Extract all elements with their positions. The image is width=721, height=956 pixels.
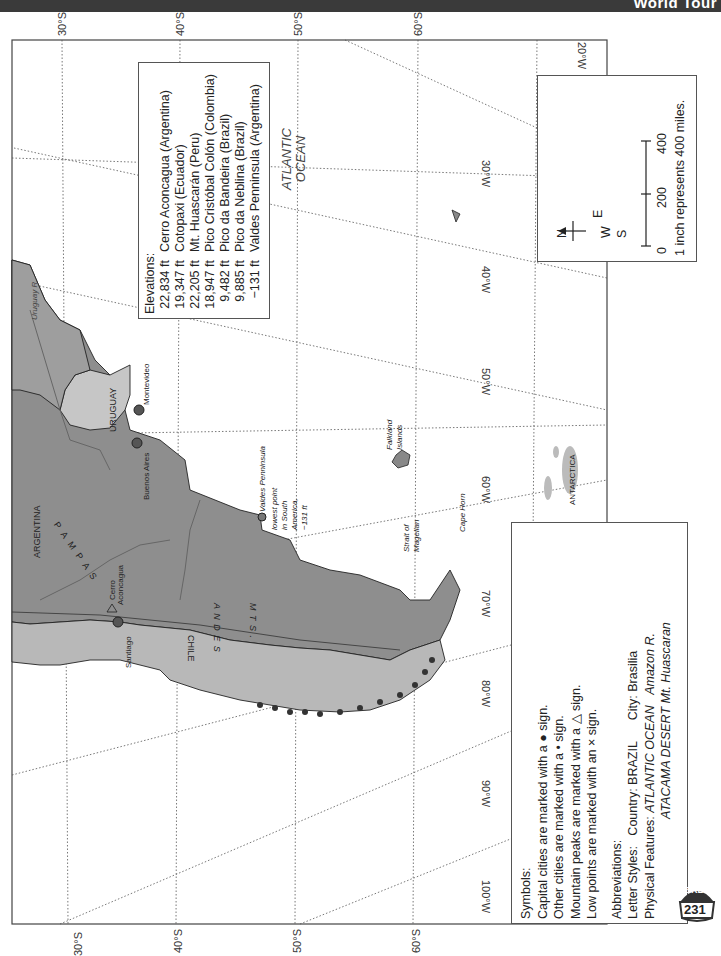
lon-label-90w: 90°W: [480, 780, 492, 807]
physical-features-2: ATACAMA DESERT Mt. Huascaran: [658, 529, 675, 919]
valdes-note: lowest pointin SouthAmerica,−131 ft: [270, 488, 310, 530]
compass-e: E: [590, 210, 607, 218]
compass-n: N: [554, 229, 571, 238]
symbol-low-point: Low points are marked with an × sign.: [584, 529, 601, 919]
lon-label-70w: 70°W: [480, 590, 492, 617]
symbol-city: Other cities are marked with a • sign.: [551, 529, 568, 919]
valdes-marker: [258, 513, 266, 521]
lon-label-50w: 50°W: [480, 368, 492, 395]
country-label-uruguay: URUGUAY: [108, 388, 118, 432]
lat-label-bottom-30: 30°S: [72, 932, 84, 956]
falkland-islands: [392, 450, 410, 468]
river-label-uruguay: Uruguay R.: [30, 280, 39, 320]
strait-label: Strait ofMagellan: [402, 520, 422, 552]
elevation-item: 19,347 ftCotopaxi (Ecuador): [173, 66, 188, 314]
lon-label-60w: 60°W: [480, 476, 492, 503]
elevations-content: Elevations: 22,834 ftCerro Aconcagua (Ar…: [143, 66, 263, 314]
scale-tick-200: 200: [654, 187, 671, 208]
compass-w: W: [598, 226, 615, 238]
elevations-box: Elevations: 22,834 ftCerro Aconcagua (Ar…: [138, 62, 270, 319]
lon-label-40w: 40°W: [480, 266, 492, 293]
elevation-item: 9,482 ftPico da Bandeira (Brazil): [218, 66, 233, 314]
elevation-item: 18,947 ftPico Cristóbal Colón (Colombia): [203, 66, 218, 314]
elevation-item: −131 ftValdes Penninsula (Argentina): [248, 66, 263, 314]
scale-box: N W E S 0 200 400 1 inch represents 400 …: [537, 75, 697, 262]
lat-label-bottom-60: 60°S: [410, 929, 422, 953]
lat-label-bottom-40: 40°S: [172, 929, 184, 953]
badge-top: SRB: [685, 885, 704, 895]
symbol-peak: Mountain peaks are marked with a △ sign.: [568, 529, 585, 919]
symbol-capital: Capital cities are marked with a ● sign.: [535, 529, 552, 919]
lon-label-20w: 20°W: [576, 42, 588, 69]
city-label-santiago: Santiago: [124, 636, 133, 668]
falkland-label: FalklandIslands: [385, 420, 405, 450]
lon-label-30w: 30°W: [480, 160, 492, 187]
scale-note: 1 inch represents 400 miles.: [672, 100, 689, 256]
badge-number: 231: [684, 902, 706, 917]
ocean-label: ATLANTICOCEAN: [280, 128, 308, 190]
lon-label-80w: 80°W: [480, 680, 492, 707]
cape-horn-label: Cape Horn: [458, 493, 467, 532]
city-label-montevideo: Montevideo: [142, 364, 151, 405]
lat-label-top-50: 50°S: [292, 12, 304, 36]
country-label-chile: CHILE: [186, 635, 196, 662]
symbols-title: Symbols:: [518, 529, 535, 919]
lon-label-100w: 100°W: [480, 880, 492, 913]
legend-box: Symbols: Capital cities are marked with …: [511, 522, 688, 924]
mts-label: M T S .: [248, 603, 258, 639]
letter-styles: Letter Styles: Country: BRAZIL City: Bra…: [625, 529, 642, 919]
lat-label-top-30: 30°S: [56, 12, 68, 36]
scale-tick-400: 400: [654, 133, 671, 154]
elevation-item: 22,834 ftCerro Aconcagua (Argentina): [158, 66, 173, 314]
physical-features: Physical Features: ATLANTIC OCEAN Amazon…: [642, 529, 659, 919]
legend-content: Symbols: Capital cities are marked with …: [518, 529, 675, 919]
city-label-buenos-aires: Buenos Aires: [142, 453, 151, 500]
elevation-item: 9,885 ftPico da Neblina (Brazil): [233, 66, 248, 314]
lat-label-top-40: 40°S: [174, 12, 186, 36]
peak-label-aconcagua: Aconcagua: [116, 565, 125, 605]
low-point-label-valdes: Valdes Penninsula: [258, 446, 267, 512]
abbreviations-title: Abbreviations:: [609, 529, 626, 919]
lat-label-bottom-50: 50°S: [291, 929, 303, 953]
elevations-title: Elevations:: [143, 66, 158, 314]
srb-page-badge: SRB 231: [676, 880, 718, 924]
south-georgia: [452, 210, 460, 222]
scale-tick-0: 0: [654, 247, 671, 254]
compass-s: S: [614, 230, 631, 238]
andes-label: A N D E S: [212, 603, 222, 653]
elevation-item: 22,205 ftMt. Huascarán (Peru): [188, 66, 203, 314]
lat-label-top-60: 60°S: [412, 12, 424, 36]
country-label-argentina: ARGENTINA: [32, 505, 42, 558]
antarctica-label: ANTARCTICA: [568, 454, 577, 505]
